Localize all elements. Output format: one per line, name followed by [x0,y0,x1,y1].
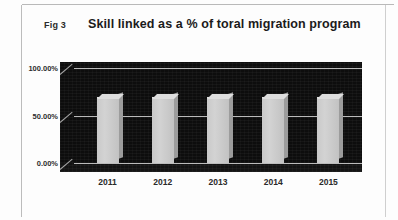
bar-front-face [262,97,284,163]
scanned-page: Fig 3 Skill linked as a % of toral migra… [0,0,398,220]
page-right-rule [385,5,386,217]
y-axis-tick-label: 50.00% [33,112,58,121]
page-top-rule [22,4,394,5]
bar [152,98,178,163]
gridline [74,68,362,69]
x-axis-tick-label: 2012 [144,177,182,187]
y-axis-tick-label: 0.00% [37,159,58,168]
bar [207,98,233,163]
plot-floor-edge [60,169,362,172]
x-axis-tick-label: 2015 [309,177,347,187]
bar-front-face [152,97,174,163]
x-axis-tick-label: 2014 [254,177,292,187]
plot-area [60,62,362,172]
depth-gridline [60,64,73,75]
gridline [74,163,362,164]
bar-front-face [207,97,229,163]
figure-title-row: Fig 3 Skill linked as a % of toral migra… [22,16,382,42]
chart-title: Skill linked as a % of toral migration p… [88,17,361,31]
y-axis-tick-labels: 0.00%50.00%100.00% [22,55,58,175]
depth-gridline [60,111,73,122]
x-axis-tick-label: 2011 [89,177,127,187]
bar [317,98,343,163]
x-axis-tick-labels: 20112012201320142015 [60,177,362,193]
bar-front-face [317,97,339,163]
bar [97,98,123,163]
y-axis-tick-label: 100.00% [28,64,58,73]
figure-number-label: Fig 3 [44,20,66,30]
bar-front-face [97,97,119,163]
bar [262,98,288,163]
bar-chart: 0.00%50.00%100.00% 20112012201320142015 [22,55,367,200]
x-axis-tick-label: 2013 [199,177,237,187]
